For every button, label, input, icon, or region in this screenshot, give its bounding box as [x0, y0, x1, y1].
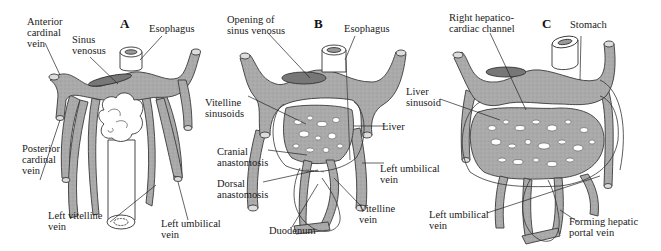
label-esophagus-b: Esophagus	[344, 23, 390, 34]
label-cranial-anastomosis: Cranial anastomosis	[217, 146, 268, 168]
panel-letter-b: B	[314, 16, 323, 32]
label-posterior-cardinal-vein: Posterior cardinal vein	[22, 143, 60, 176]
label-anterior-cardinal-vein: Anterior cardinal vein	[27, 16, 63, 49]
label-vitelline-vein: Vitelline vein	[359, 203, 395, 225]
label-vitelline-sinusoids: Vitelline sinusoids	[205, 97, 244, 119]
sinus-venosus-opening-b	[282, 72, 326, 84]
sinus-venosus-opening-c	[486, 67, 526, 77]
label-stomach: Stomach	[570, 19, 607, 30]
panel-letter-c: C	[542, 16, 551, 32]
label-duodenum: Duodenum	[269, 225, 316, 236]
label-dorsal-anastomosis: Dorsal anastomosis	[217, 178, 268, 200]
embryonic-vein-diagram: A Anterior cardinal vein Sinus venosus E…	[0, 0, 661, 251]
stomach-tube-c	[551, 34, 579, 69]
label-liver-b: Liver	[382, 121, 405, 132]
label-left-vitelline-vein: Left vitelline vein	[48, 210, 103, 232]
label-esophagus-a: Esophagus	[149, 23, 195, 34]
label-left-umbilical-vein-a: Left umbilical vein	[161, 218, 221, 240]
gut-tube-a	[99, 93, 143, 229]
label-opening-of-sinus-venosus: Opening of sinus venosus	[227, 14, 285, 36]
panel-letter-a: A	[120, 16, 129, 32]
label-left-umbilical-vein-c: Left umbilical vein	[429, 209, 489, 231]
label-forming-hepatic-portal-vein: Forming hepatic portal vein	[569, 216, 638, 238]
esophagus-a	[120, 47, 142, 71]
label-left-umbilical-vein-b: Left umbilical vein	[380, 163, 440, 185]
label-right-hepatico-cardiac-channel: Right hepatico- cardiac channel	[449, 12, 515, 34]
label-sinus-venosus: Sinus venosus	[72, 34, 106, 56]
label-liver-sinusoid: Liver sinusoid	[406, 86, 441, 108]
